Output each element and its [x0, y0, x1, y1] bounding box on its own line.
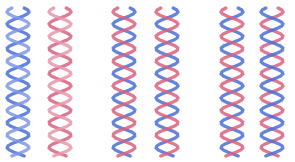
helix-4 — [150, 6, 184, 158]
helix-6 — [255, 6, 289, 158]
helix-3 — [107, 6, 141, 158]
helix-2 — [43, 6, 77, 158]
helix-5 — [215, 6, 249, 158]
helix-1 — [1, 6, 35, 158]
